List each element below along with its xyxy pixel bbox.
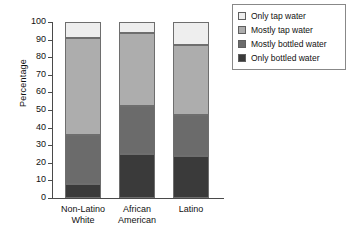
bar-stack	[119, 22, 155, 198]
y-tick-mark	[48, 57, 52, 58]
plot-area: 0102030405060708090100 Non-LatinoWhiteAf…	[52, 22, 222, 198]
bar-stack	[65, 22, 101, 198]
y-axis-line	[52, 22, 53, 198]
bar-segment	[119, 22, 155, 33]
bar-segment	[65, 22, 101, 38]
y-axis-title: Percentage	[18, 43, 28, 123]
legend-swatch-icon	[238, 26, 246, 34]
y-tick-mark	[48, 92, 52, 93]
x-axis-line	[52, 198, 224, 199]
chart-container: Percentage 0102030405060708090100 Non-La…	[0, 0, 350, 235]
y-tick-label: 100	[31, 16, 46, 27]
x-tick-label-line: American	[89, 215, 185, 226]
y-tick-mark	[48, 128, 52, 129]
legend-item: Mostly bottled water	[238, 37, 340, 50]
y-tick-label: 80	[36, 51, 46, 62]
bar-segment	[65, 184, 101, 198]
y-tick-label: 0	[41, 192, 46, 203]
bar-stack	[173, 22, 209, 198]
legend-label: Only bottled water	[251, 53, 320, 63]
legend-swatch-icon	[238, 40, 246, 48]
y-tick-mark	[48, 40, 52, 41]
legend-item: Only tap water	[238, 9, 340, 22]
bar-segment	[65, 38, 101, 135]
bar-segment	[119, 106, 155, 154]
y-tick-label: 70	[36, 69, 46, 80]
y-tick-label: 30	[36, 139, 46, 150]
y-tick-label: 40	[36, 122, 46, 133]
y-tick-label: 50	[36, 104, 46, 115]
y-tick-mark	[48, 110, 52, 111]
x-tick-label: Latino	[143, 204, 239, 215]
y-tick-mark	[48, 145, 52, 146]
bar-segment	[173, 156, 209, 198]
legend-item: Only bottled water	[238, 51, 340, 64]
legend-swatch-icon	[238, 12, 246, 20]
legend-swatch-icon	[238, 54, 246, 62]
bar-segment	[119, 154, 155, 198]
y-tick-mark	[48, 163, 52, 164]
legend-label: Mostly tap water	[251, 25, 313, 35]
bar-segment	[65, 135, 101, 184]
legend-item: Mostly tap water	[238, 23, 340, 36]
y-tick-label: 60	[36, 86, 46, 97]
bar-segment	[173, 115, 209, 155]
bar-segment	[173, 22, 209, 45]
plot-area-wrapper: Percentage 0102030405060708090100 Non-La…	[0, 0, 230, 235]
y-tick-label: 20	[36, 157, 46, 168]
y-tick-mark	[48, 75, 52, 76]
legend-label: Mostly bottled water	[251, 39, 327, 49]
y-tick-mark	[48, 22, 52, 23]
y-tick-label: 10	[36, 174, 46, 185]
bar-segment	[119, 33, 155, 107]
y-tick-label: 90	[36, 34, 46, 45]
y-tick-mark	[48, 180, 52, 181]
legend-label: Only tap water	[251, 11, 306, 21]
chart-legend: Only tap waterMostly tap waterMostly bot…	[232, 4, 346, 70]
y-tick-mark	[48, 198, 52, 199]
x-tick-label-line: Latino	[143, 204, 239, 215]
bar-segment	[173, 45, 209, 115]
